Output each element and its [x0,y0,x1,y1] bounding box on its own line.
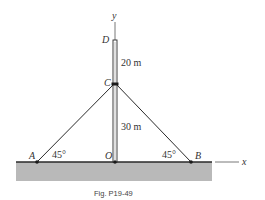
ground [16,162,212,181]
point-b-marker [189,160,193,164]
angle-left-label: 45° [52,149,66,160]
y-axis-label: y [111,10,117,21]
point-d-label: D [101,34,110,45]
point-c-label: C [104,77,111,88]
dimension-20m: 20 m [121,57,142,68]
x-axis-label: x [241,156,247,167]
point-o-label: O [105,150,112,161]
point-o-marker [113,160,117,164]
diagram-canvas: y x D C A O B 20 m 30 m 45° 45° Fig. P19… [0,0,265,200]
collar-c [112,83,119,86]
dimension-30m: 30 m [121,121,142,132]
point-a-marker [35,160,39,164]
cable-ac [37,84,114,162]
point-a-label: A [28,150,36,161]
figure-caption: Fig. P19-49 [94,189,133,198]
angle-right-label: 45° [162,149,176,160]
point-b-label: B [195,150,201,161]
